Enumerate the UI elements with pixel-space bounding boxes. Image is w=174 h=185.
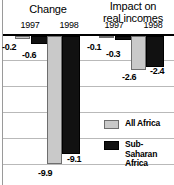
bar-impact-1997-sub-saharan [115,36,132,40]
panel-title-change: Change [8,4,88,16]
value-label-change-1997-sub-saharan: -0.6 [22,50,36,60]
bar-impact-1998-sub-saharan [146,36,164,67]
legend-label-sub-saharan-africa-line2: Africa [125,159,174,169]
change-year-label-1998: 1998 [56,20,82,30]
legend-item-sub-saharan-africa: Sub-Saharan Africa [104,140,174,169]
value-label-impact-1998-all-africa: -2.6 [122,72,136,82]
legend-swatch-all-africa [104,120,119,129]
bar-change-1997-sub-saharan [31,36,48,44]
gridline-minus-4 [3,86,174,87]
bar-change-1998-all-africa [47,36,62,164]
value-label-impact-1997-all-africa: -0.1 [87,42,101,52]
value-label-impact-1997-sub-saharan: -0.3 [106,49,120,59]
value-label-change-1998-sub-saharan: -9.1 [67,154,81,164]
impact-year-label-1998: 1998 [140,20,166,30]
bar-change-1997-all-africa [15,36,30,39]
value-label-impact-1998-sub-saharan: -2.4 [150,66,164,76]
legend-label-sub-saharan-africa-line1: Sub-Saharan [125,140,174,159]
bar-change-1998-sub-saharan [62,36,80,154]
legend-label-all-africa: All Africa [125,119,174,129]
bar-impact-1998-all-africa [131,36,146,70]
gridline-minus-6 [3,112,174,113]
panel-title-impact-line1: Impact on [92,1,174,13]
change-year-label-1997: 1997 [17,20,43,30]
value-label-change-1998-all-africa: -9.9 [38,168,52,178]
plot-frame-left-border [2,0,3,185]
value-label-change-1997-all-africa: -0.2 [2,42,16,52]
impact-year-label-1997: 1997 [101,20,127,30]
legend-item-all-africa: All Africa [104,119,174,133]
legend-swatch-sub-saharan-africa [104,141,119,150]
bar-chart: Change 1997 1998 -0.2 -0.6 -9.9 -9.1 Imp… [0,0,174,185]
bar-impact-1997-all-africa [99,36,114,38]
chart-legend: All Africa Sub-Saharan Africa [104,119,174,176]
